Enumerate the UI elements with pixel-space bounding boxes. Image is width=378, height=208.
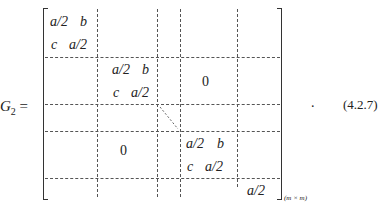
- block-1-a11: a/2: [50, 14, 68, 30]
- upper-zero-block: 0: [202, 74, 209, 90]
- block-3-a11: a/2: [186, 136, 204, 152]
- block-2-a22: a/2: [131, 85, 149, 101]
- block-2-a12: b: [142, 62, 149, 78]
- last-diagonal-entry: a/2: [247, 183, 265, 199]
- vertical-divider-1: [97, 9, 98, 197]
- block-3-a21: c: [187, 159, 193, 175]
- horizontal-divider-1: [45, 57, 280, 58]
- equation-number: (4.2.7): [343, 97, 378, 113]
- block-3-a12: b: [217, 136, 224, 152]
- diagonal-ellipsis-icon: [158, 105, 180, 131]
- trailing-period: .: [311, 95, 315, 111]
- block-1-a22: a/2: [69, 37, 87, 53]
- block-1-a21: c: [51, 37, 57, 53]
- vertical-divider-3: [180, 9, 181, 197]
- horizontal-divider-3: [45, 131, 280, 132]
- vertical-divider-4: [237, 9, 238, 187]
- lower-zero-block: 0: [120, 143, 127, 159]
- matrix-subscript: 2: [11, 106, 16, 117]
- vertical-divider-2: [157, 9, 158, 197]
- matrix-symbol: G: [0, 98, 11, 114]
- block-2-a11: a/2: [112, 62, 130, 78]
- matrix-name: G2 =: [0, 98, 28, 117]
- horizontal-divider-4: [45, 178, 280, 179]
- block-3-a22: a/2: [205, 159, 223, 175]
- block-2-a21: c: [113, 85, 119, 101]
- equals-sign: =: [20, 98, 28, 114]
- matrix-size-subscript: (m × m): [284, 194, 307, 202]
- block-1-a12: b: [80, 14, 87, 30]
